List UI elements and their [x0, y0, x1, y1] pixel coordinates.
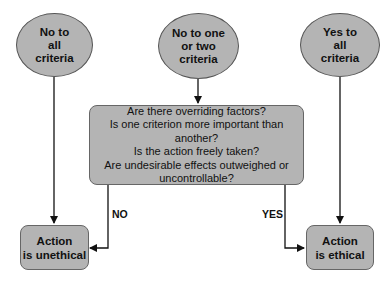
outcome-unethical: Action is unethical [20, 225, 89, 270]
outcome-label: Action is ethical [315, 234, 364, 262]
edge-label-yes: YES [262, 208, 283, 220]
decision-box: Are there overriding factors? Is one cri… [89, 105, 304, 185]
outcome-label: Action is unethical [23, 234, 86, 262]
decision-questions: Are there overriding factors? Is one cri… [94, 105, 299, 186]
node-no-to-one-or-two-criteria: No to one or two criteria [158, 13, 239, 79]
node-label: No to all criteria [35, 26, 73, 65]
node-no-to-all-criteria: No to all criteria [16, 13, 93, 77]
node-yes-to-all-criteria: Yes to all criteria [300, 13, 380, 77]
node-label: No to one or two criteria [172, 27, 225, 66]
outcome-ethical: Action is ethical [306, 225, 374, 270]
node-label: Yes to all criteria [321, 26, 359, 65]
edge-label-no: NO [112, 208, 128, 220]
